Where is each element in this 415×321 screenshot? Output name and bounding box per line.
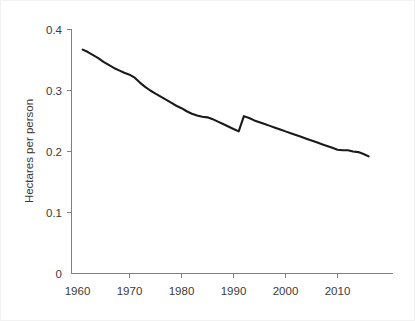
x-tick-label-1970: 1970 bbox=[117, 285, 143, 297]
x-axis-ticks bbox=[130, 274, 338, 279]
x-tick-label-2010: 2010 bbox=[325, 285, 351, 297]
x-tick-label-2000: 2000 bbox=[273, 285, 299, 297]
y-tick-label-0.4: 0.4 bbox=[46, 24, 63, 36]
x-tick-label-1980: 1980 bbox=[169, 285, 195, 297]
chart-container: 0.4 0.3 0.2 0.1 0 1960 1970 1980 1990 20… bbox=[0, 0, 415, 321]
y-tick-label-0.3: 0.3 bbox=[46, 85, 62, 97]
x-tick-label-1960: 1960 bbox=[65, 285, 91, 297]
y-axis-title: Hectares per person bbox=[23, 99, 35, 203]
y-tick-label-0.2: 0.2 bbox=[46, 146, 62, 158]
data-series-line bbox=[83, 50, 369, 157]
y-tick-label-0.1: 0.1 bbox=[46, 207, 62, 219]
line-chart: 0.4 0.3 0.2 0.1 0 1960 1970 1980 1990 20… bbox=[1, 1, 415, 321]
y-tick-label-0: 0 bbox=[56, 268, 62, 280]
y-axis-ticks bbox=[67, 30, 72, 213]
x-tick-label-1990: 1990 bbox=[221, 285, 247, 297]
